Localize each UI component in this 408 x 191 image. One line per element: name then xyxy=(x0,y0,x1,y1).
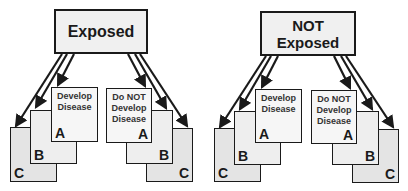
card-letter: B xyxy=(34,148,44,163)
card-letter: C xyxy=(385,167,395,182)
develop-label: Develop Disease xyxy=(52,91,97,113)
card-letter: C xyxy=(218,166,228,181)
not-exposed-title-box: NOT Exposed xyxy=(260,11,356,56)
not-exposed-title-line2: Exposed xyxy=(277,34,340,51)
develop-card-a: Develop Disease A xyxy=(255,89,302,143)
panel-not-exposed: NOT Exposed C B Develop Disease A C B Do… xyxy=(204,0,408,191)
exposed-title: Exposed xyxy=(68,23,135,40)
panel-exposed: Exposed C B Develop Disease A C B Do NOT… xyxy=(0,0,204,191)
card-letter: A xyxy=(343,128,353,143)
develop-label: Develop Disease xyxy=(256,93,301,115)
card-letter: B xyxy=(238,149,248,164)
donot-card-a: Do NOT Develop Disease A xyxy=(311,90,357,144)
exposed-title-box: Exposed xyxy=(54,9,148,54)
donot-card-a: Do NOT Develop Disease A xyxy=(106,88,152,143)
donot-label: Do NOT Develop Disease xyxy=(312,94,356,127)
develop-card-a: Develop Disease A xyxy=(51,87,98,142)
card-letter: C xyxy=(14,166,24,181)
donot-label: Do NOT Develop Disease xyxy=(107,92,151,125)
card-letter: A xyxy=(138,127,148,142)
card-letter: A xyxy=(55,126,65,141)
card-letter: B xyxy=(365,149,375,164)
card-letter: A xyxy=(259,127,269,142)
not-exposed-title-line1: NOT xyxy=(292,17,324,34)
card-letter: C xyxy=(179,166,189,181)
card-letter: B xyxy=(159,148,169,163)
